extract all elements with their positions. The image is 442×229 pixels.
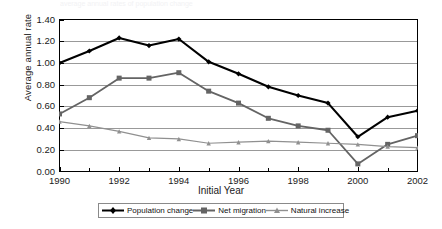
data-point-marker bbox=[87, 95, 92, 100]
plot-border bbox=[60, 20, 418, 172]
y-tick-label: 1.40 bbox=[21, 15, 55, 25]
chart-figure: average annual rates of population chang… bbox=[0, 0, 442, 229]
triangle-marker-icon bbox=[266, 206, 288, 215]
data-point-marker bbox=[266, 116, 271, 121]
data-point-marker bbox=[415, 133, 418, 138]
legend-item-population-change: Population change bbox=[102, 206, 193, 215]
data-point-marker bbox=[206, 89, 211, 94]
series-natural-increase bbox=[59, 119, 418, 149]
diamond-marker-icon bbox=[102, 206, 124, 215]
data-point-marker bbox=[296, 123, 301, 128]
data-point-marker bbox=[176, 70, 181, 75]
y-tick-label: 1.20 bbox=[21, 36, 55, 46]
legend-label: Net migration bbox=[218, 207, 266, 215]
data-point-marker bbox=[236, 101, 241, 106]
data-point-marker bbox=[59, 111, 62, 116]
legend-label: Population change bbox=[127, 207, 193, 215]
cropped-caption-fragment: average annual rates of population chang… bbox=[60, 0, 390, 8]
y-tick-label: 0.40 bbox=[21, 123, 55, 133]
data-point-marker bbox=[326, 128, 331, 133]
legend-item-net-migration: Net migration bbox=[193, 206, 266, 215]
series-population-change bbox=[59, 35, 418, 139]
x-axis-tickmarks bbox=[61, 167, 419, 171]
y-tick-label: 0.60 bbox=[21, 101, 55, 111]
y-axis-tickmarks bbox=[60, 21, 64, 173]
data-point-marker bbox=[355, 161, 360, 166]
data-point-marker bbox=[296, 93, 301, 98]
y-tick-label: 0.80 bbox=[21, 80, 55, 90]
data-point-marker bbox=[147, 76, 152, 81]
series-line bbox=[60, 38, 418, 137]
y-tick-label: 1.00 bbox=[21, 58, 55, 68]
square-marker-icon bbox=[193, 206, 215, 215]
legend-label: Natural increase bbox=[291, 207, 349, 215]
series-layer bbox=[59, 35, 418, 166]
data-point-marker bbox=[146, 43, 151, 48]
x-axis-label: Initial Year bbox=[0, 185, 442, 196]
series-net-migration bbox=[59, 70, 418, 166]
chart-legend: Population change Net migration Natural … bbox=[98, 203, 344, 218]
line-chart-svg bbox=[59, 19, 418, 172]
y-tick-label: 0.20 bbox=[21, 145, 55, 155]
data-point-marker bbox=[117, 76, 122, 81]
data-point-marker bbox=[415, 108, 418, 113]
legend-item-natural-increase: Natural increase bbox=[266, 206, 349, 215]
plot-area: 0.000.200.400.600.801.001.201.40 1990199… bbox=[59, 19, 418, 172]
